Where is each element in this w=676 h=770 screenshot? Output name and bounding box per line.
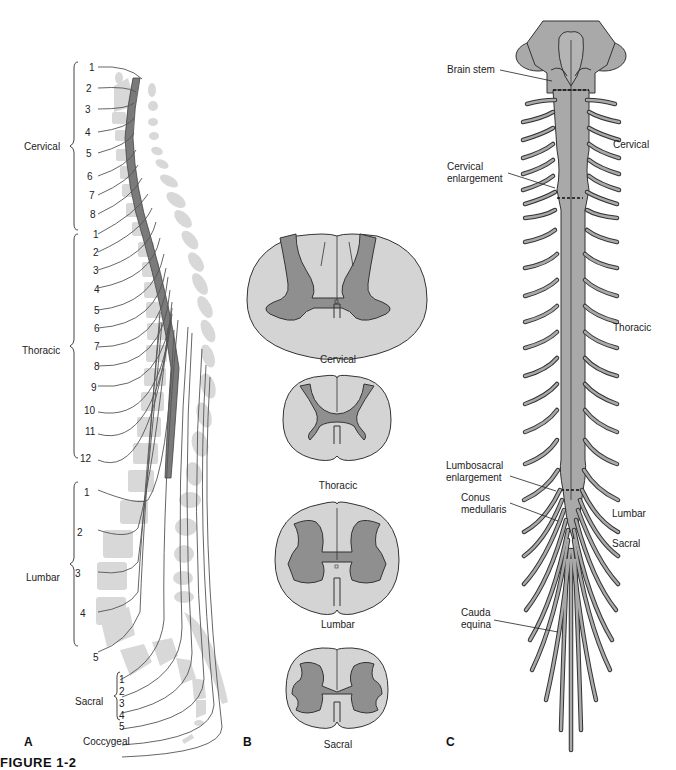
panel-letter-c: C xyxy=(446,735,455,749)
label-cauda-equina-line1: Cauda xyxy=(461,607,490,618)
label-region-thoracic: Thoracic xyxy=(613,322,651,333)
label-cauda-equina-line2: equina xyxy=(461,619,491,630)
label-region-sacral: Sacral xyxy=(612,538,640,549)
label-cervical-enlargement-line2: enlargement xyxy=(447,173,503,184)
label-region-cervical: Cervical xyxy=(613,139,649,150)
panel-letter-b: B xyxy=(243,735,252,749)
spinal-cord xyxy=(553,40,589,540)
label-lumbosacral-enlargement-line2: enlargement xyxy=(446,472,502,483)
label-region-lumbar: Lumbar xyxy=(612,508,646,519)
label-conus-medullaris-line1: Conus xyxy=(461,492,490,503)
label-lumbosacral-enlargement-line1: Lumbosacral xyxy=(446,460,503,471)
label-cervical-enlargement-line1: Cervical xyxy=(447,161,483,172)
label-brain-stem: Brain stem xyxy=(447,64,495,75)
panel-letter-a: A xyxy=(24,735,33,749)
label-conus-medullaris-line2: medullaris xyxy=(461,504,507,515)
figure-caption: FIGURE 1-2 xyxy=(0,755,77,770)
